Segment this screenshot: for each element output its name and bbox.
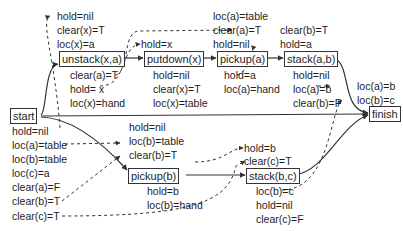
pre-pickupa-2: hold=nil [213,38,250,50]
eff-stackbc-1: hold=nil [256,199,293,211]
pre-unstack-1: clear(x)=T [57,24,105,36]
eff-unstack-0: clear(a)=T [70,69,118,81]
eff-pickupa-1: loc(a)=hand [224,83,280,95]
eff-pickupb-0: hold=b [147,185,179,197]
eff-pickupb-1: loc(b)=hand [147,199,203,211]
eff-stackbc-0: loc(b)=c [256,185,294,197]
pre-finish-1: loc(b)=c [357,94,395,106]
eff-stackab-2: clear(b)=F [293,97,341,109]
node-pickup-a: pickup(a) [217,51,268,67]
eff-start-2: loc(b)=table [12,153,67,165]
node-pickup-b: pickup(b) [128,168,179,184]
eff-putdown-2: loc(x)=table [153,97,208,109]
causal-holdb-stackbc [195,148,243,162]
pre-pickupa-1: clear(a)=T [213,24,261,36]
node-stack-bc: stack(b,c) [246,168,300,184]
pre-pickupa-0: loc(a)=table [213,10,268,22]
node-unstack-label: unstack(x,a) [62,53,122,65]
pre-stackbc-1: clear(c)=T [244,155,292,167]
pre-stackab-1: hold=a [280,38,312,50]
eff-stackab-0: hold=nil [293,69,330,81]
pre-stackab-0: clear(b)=T [280,24,328,36]
eff-start-6: clear(c)=T [12,210,60,222]
pre-unstack-0: hold=nil [57,10,94,22]
causal-clearb-pickupb [62,156,120,201]
node-start: start [10,108,37,124]
eff-stackbc-2: clear(c)=F [256,213,304,225]
pre-stackbc-0: hold=b [244,142,276,154]
pre-pickupb-0: hold=nil [129,121,166,133]
eff-putdown-1: clear(x)=T [153,83,201,95]
eff-putdown-0: hold=nil [153,69,190,81]
eff-start-5: clear(b)=T [12,195,60,207]
link-start-finish [41,114,368,116]
node-stack-ab: stack(a,b) [284,51,338,67]
eff-start-0: hold=nil [12,125,49,137]
eff-start-3: loc(c)=a [12,167,50,179]
plan-diagram: start unstack(x,a) putdown(x) pickup(a) … [0,0,403,231]
eff-stackab-1: loc(a)=b [293,83,331,95]
eff-pickupa-0: hold=a [224,69,256,81]
causal-locb-pickupb [65,143,120,144]
pre-finish-0: loc(a)=b [357,80,395,92]
eff-start-4: clear(a)=F [12,181,60,193]
pre-pickupb-2: clear(b)=T [129,149,177,161]
link-stackbc-finish [294,115,368,175]
node-putdown: putdown(x) [144,51,204,67]
eff-start-1: loc(a)=table [12,139,67,151]
eff-unstack-2: loc(x)=hand [70,97,125,109]
pre-unstack-2: loc(x)=a [57,38,95,50]
eff-unstack-1: hold= x [70,83,104,95]
pre-pickupb-1: loc(b)=table [129,135,184,147]
node-finish: finish [369,106,401,122]
node-unstack: unstack(x,a) [59,51,125,67]
pre-putdown-0: hold=x [141,38,172,50]
